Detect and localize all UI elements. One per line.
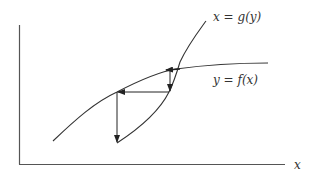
cobweb-diagram: x x = g(y) y = f(x)	[0, 0, 314, 181]
curve-f-label: y = f(x)	[212, 73, 258, 87]
cobweb-horizontal-arrow-top	[166, 69, 180, 70]
curve-g	[117, 21, 206, 143]
curve-g-label: x = g(y)	[213, 10, 262, 24]
x-axis-label: x	[294, 158, 301, 172]
